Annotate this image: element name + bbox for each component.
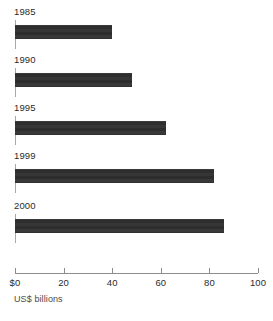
bar-category-label: 1995: [14, 102, 36, 114]
bar-category-label: 1985: [14, 6, 36, 18]
x-axis: $0 20 40 60 80 100 US$ billions: [0, 268, 273, 321]
bar-group-1995: 1995: [0, 102, 273, 150]
bar-chart: 1985 1990 1995 1999 2000: [0, 0, 273, 321]
plot-area: 1985 1990 1995 1999 2000: [0, 0, 273, 268]
bar-category-label: 2000: [14, 200, 36, 212]
bar-group-1990: 1990: [0, 54, 273, 102]
x-axis-tick: [209, 268, 210, 273]
x-axis-tick-label: 60: [155, 277, 166, 288]
x-axis-tick: [161, 268, 162, 273]
bar-group-1999: 1999: [0, 150, 273, 198]
x-axis-line: [15, 273, 258, 274]
x-axis-tick-label: 40: [107, 277, 118, 288]
bar-2000: [15, 219, 224, 233]
x-axis-tick-label: 80: [204, 277, 215, 288]
x-axis-tick: [64, 268, 65, 273]
bar-group-2000: 2000: [0, 200, 273, 248]
x-axis-tick-label: 100: [250, 277, 266, 288]
bar-1995: [15, 121, 166, 135]
x-axis-tick-label: 20: [58, 277, 69, 288]
bar-category-label: 1999: [14, 150, 36, 162]
x-axis-tick: [258, 268, 259, 273]
x-axis-tick: [15, 268, 16, 273]
x-axis-title: US$ billions: [14, 294, 63, 304]
bar-1999: [15, 169, 214, 183]
bar-category-label: 1990: [14, 54, 36, 66]
x-axis-tick-label: $0: [10, 277, 21, 288]
bar-1990: [15, 73, 132, 87]
x-axis-tick: [112, 268, 113, 273]
bar-group-1985: 1985: [0, 6, 273, 54]
bar-1985: [15, 25, 112, 39]
